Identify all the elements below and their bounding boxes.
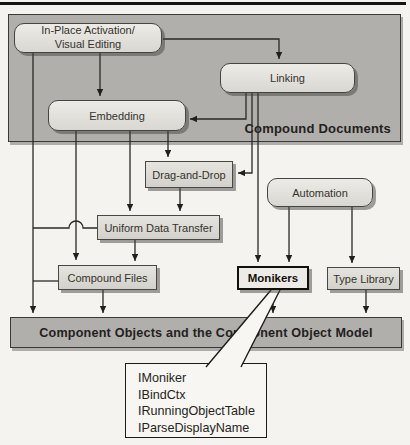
in-place-label: In-Place Activation/ Visual Editing xyxy=(41,24,135,52)
linking-label: Linking xyxy=(270,72,305,84)
com-bar-region: Component Objects and the Component Obje… xyxy=(10,317,402,348)
box-drag-and-drop: Drag-and-Drop xyxy=(145,161,233,188)
box-automation: Automation xyxy=(267,178,373,207)
uniform-data-transfer-label: Uniform Data Transfer xyxy=(104,222,212,234)
monikers-label: Monikers xyxy=(248,272,299,284)
line-left-to-udt-with-hop xyxy=(33,221,97,228)
com-bar-label: Component Objects and the Component Obje… xyxy=(39,326,373,340)
automation-label: Automation xyxy=(292,187,348,199)
box-monikers: Monikers xyxy=(237,266,309,290)
type-library-label: Type Library xyxy=(333,273,394,285)
page-rule xyxy=(0,2,406,5)
interface-imoniker: IMoniker xyxy=(138,370,260,387)
box-compound-files: Compound Files xyxy=(58,265,157,290)
compound-documents-label: Compound Documents xyxy=(244,121,391,136)
interface-irunningobjecttable: IRunningObjectTable xyxy=(138,403,260,420)
interface-iparsedisplayname: IParseDisplayName xyxy=(138,420,260,437)
box-uniform-data-transfer: Uniform Data Transfer xyxy=(97,215,220,240)
drag-and-drop-label: Drag-and-Drop xyxy=(152,169,225,181)
moniker-interfaces-callout: IMoniker IBindCtx IRunningObjectTable IP… xyxy=(125,363,267,438)
interface-ibindctx: IBindCtx xyxy=(138,387,260,404)
compound-files-label: Compound Files xyxy=(67,272,147,284)
box-type-library: Type Library xyxy=(327,267,400,290)
embedding-label: Embedding xyxy=(89,110,145,122)
box-in-place-activation: In-Place Activation/ Visual Editing xyxy=(14,23,162,53)
box-embedding: Embedding xyxy=(48,100,186,131)
box-linking: Linking xyxy=(220,63,355,93)
